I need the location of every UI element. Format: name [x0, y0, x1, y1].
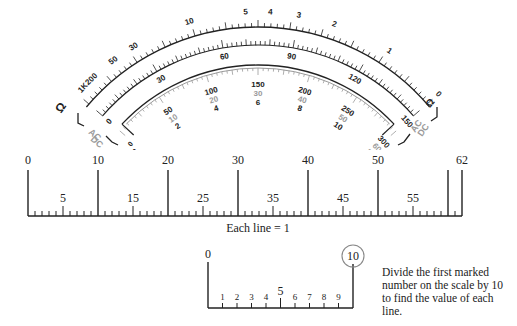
ohms-label: 0 [434, 89, 444, 99]
ruler-minor-label: 5 [60, 191, 66, 205]
ac-zero: 0 [126, 140, 134, 148]
ruler-major-label: 40 [302, 153, 314, 167]
ohms-label: 4 [268, 7, 273, 16]
ohms-label: 30 [127, 40, 140, 53]
ac-label-row3: 6 [256, 98, 261, 107]
dc-label: 120 [347, 72, 364, 87]
dc-label: 0 [104, 116, 114, 126]
ac-label-row3: 8 [296, 104, 303, 114]
mini-tick-label: 8 [322, 292, 327, 302]
multimeter-scale: 1K200503010543210Ω0306090120150501001502… [0, 0, 517, 150]
ac-label-row1: 150 [251, 80, 265, 89]
mini-tick-label: 7 [307, 292, 312, 302]
ohms-label: 5 [243, 7, 248, 16]
mini-tick-label: 3 [249, 292, 254, 302]
dc-label: 30 [155, 73, 168, 85]
ruler-minor-label: 15 [127, 191, 139, 205]
band-end [382, 124, 394, 135]
mini-tick-label: 5 [278, 284, 284, 298]
mini-end-label: 10 [347, 249, 359, 263]
ruler-caption: Each line = 1 [226, 221, 290, 235]
ruler-major-label: 20 [162, 153, 174, 167]
ohms-label: 2 [331, 19, 339, 29]
mini-tick-label: 4 [264, 292, 269, 302]
ruler-major-label: 10 [92, 153, 104, 167]
ruler-minor-label: 25 [197, 191, 209, 205]
mini-tick-label: 6 [293, 292, 298, 302]
dc-label: 60 [219, 51, 230, 61]
ac-label-row2: 30 [254, 89, 263, 98]
ohms-label: 50 [107, 54, 120, 67]
right-ohms-symbol: Ω [423, 96, 437, 109]
ruler-minor-label: 55 [407, 191, 419, 205]
mini-scale-0-10: 010123456789 [190, 238, 380, 313]
mini-tick-label: 9 [336, 292, 341, 302]
ruler-major-label: 0 [25, 153, 31, 167]
ohms-label: 1 [385, 46, 394, 56]
ohms-label: 3 [296, 10, 302, 20]
ac-label-row3: 2 [174, 121, 183, 131]
ruler-minor-label: 45 [337, 191, 349, 205]
scale-instruction-note: Divide the first marked number on the sc… [382, 266, 512, 318]
mini-tick-label: 2 [235, 292, 240, 302]
mini-start-label: 0 [205, 247, 211, 261]
mini-tick-label: 1 [220, 292, 225, 302]
ac-label-row3: 4 [213, 103, 220, 113]
ohms-label: 10 [184, 16, 196, 27]
ruler-major-label: 30 [232, 153, 244, 167]
ruler-minor-label: 35 [267, 191, 279, 205]
dc-label: 90 [286, 51, 297, 61]
ruler-major-label: 62 [456, 153, 468, 167]
linear-scale-0-62: 010203040506251525354555Each line = 1 [0, 150, 517, 240]
ruler-major-label: 50 [372, 153, 384, 167]
band-end [122, 124, 134, 135]
ohms-symbol: Ω [52, 99, 69, 115]
